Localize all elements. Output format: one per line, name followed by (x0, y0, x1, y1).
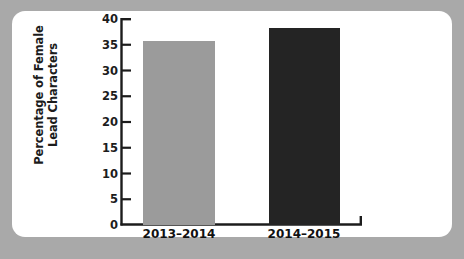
y-tick-label-40: 40 (102, 12, 118, 26)
y-tick-label-15: 15 (102, 141, 118, 155)
y-axis-title-line-2: Lead Characters (46, 43, 60, 147)
chart-axes (12, 11, 452, 237)
x-tick-label-2014-2015: 2014–2015 (248, 227, 360, 241)
y-tick-label-30: 30 (102, 64, 118, 78)
y-tick-label-25: 25 (102, 89, 118, 103)
y-axis-tick-labels: 0 5 10 15 20 25 30 35 40 (96, 19, 118, 225)
y-tick-label-0: 0 (110, 218, 118, 232)
chart-card: Percentage of Female Lead Characters 0 5… (12, 11, 452, 237)
y-axis-title: Percentage of Female Lead Characters (24, 5, 68, 185)
y-tick-label-35: 35 (102, 38, 118, 52)
bar-chart-plot-area: Percentage of Female Lead Characters 0 5… (12, 11, 452, 237)
y-tick-label-20: 20 (102, 115, 118, 129)
bar-2013-2014[interactable] (143, 41, 215, 225)
figure-root: Percentage of Female Lead Characters 0 5… (0, 0, 464, 259)
x-tick-label-2013-2014: 2013–2014 (123, 227, 235, 241)
y-tick-label-5: 5 (110, 192, 118, 206)
y-tick-label-10: 10 (102, 167, 118, 181)
bar-2014-2015[interactable] (269, 28, 340, 225)
y-axis-title-line-1: Percentage of Female (32, 25, 46, 165)
